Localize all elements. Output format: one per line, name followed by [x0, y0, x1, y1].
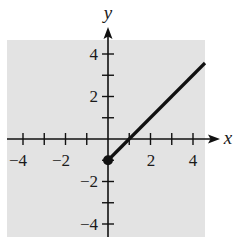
y-tick-label: 2 — [90, 87, 99, 106]
y-tick-label: −4 — [80, 215, 99, 234]
x-tick-label: 2 — [147, 151, 156, 170]
x-axis-label: x — [223, 127, 233, 148]
coordinate-plane: −4 −2 2 4 4 2 −2 −4 x y — [0, 0, 235, 251]
y-tick-label: 4 — [90, 45, 99, 64]
y-axis-label: y — [102, 2, 113, 23]
x-tick-label: −2 — [52, 151, 70, 170]
x-tick-label: −4 — [9, 151, 28, 170]
y-tick-label: −2 — [80, 172, 98, 191]
closed-endpoint-dot — [103, 155, 113, 165]
graph-figure: −4 −2 2 4 4 2 −2 −4 x y — [0, 0, 235, 251]
x-tick-label: 4 — [189, 151, 198, 170]
